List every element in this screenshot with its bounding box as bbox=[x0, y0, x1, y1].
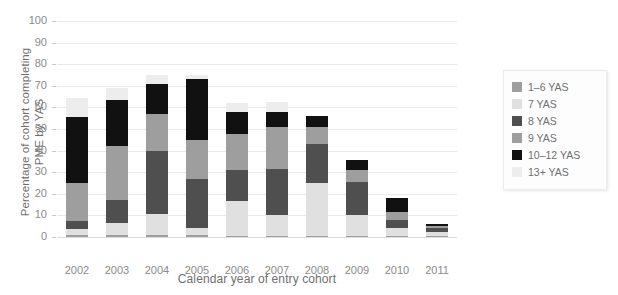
bar-segment[interactable] bbox=[386, 228, 408, 236]
bar-segment[interactable] bbox=[426, 226, 448, 228]
bar-segment[interactable] bbox=[306, 144, 328, 183]
stacked-bar[interactable] bbox=[386, 198, 408, 237]
y-tick-label: 10 bbox=[15, 208, 47, 220]
y-tick-mark bbox=[52, 107, 56, 108]
bar-segment[interactable] bbox=[106, 88, 128, 100]
bar-segment[interactable] bbox=[186, 79, 208, 139]
bar-segment[interactable] bbox=[346, 160, 368, 170]
bar-segment[interactable] bbox=[146, 75, 168, 84]
legend-item-label: 7 YAS bbox=[528, 98, 557, 110]
bar-segment[interactable] bbox=[346, 215, 368, 236]
bar-segment[interactable] bbox=[266, 127, 288, 169]
bar-segment[interactable] bbox=[226, 236, 248, 237]
stacked-bar[interactable] bbox=[66, 98, 88, 237]
bar-segment[interactable] bbox=[66, 235, 88, 237]
bar-segment[interactable] bbox=[426, 224, 448, 226]
legend-swatch-icon bbox=[512, 99, 522, 109]
legend-item[interactable]: 7 YAS bbox=[512, 96, 599, 112]
bar-segment[interactable] bbox=[66, 98, 88, 117]
bar-segment[interactable] bbox=[306, 116, 328, 127]
bar-segment[interactable] bbox=[426, 228, 448, 231]
bar-segment[interactable] bbox=[106, 100, 128, 146]
bar-segment[interactable] bbox=[386, 198, 408, 212]
bar-segment[interactable] bbox=[346, 182, 368, 215]
y-tick-label: 50 bbox=[15, 122, 47, 134]
y-tick-mark bbox=[52, 43, 56, 44]
bar-segment[interactable] bbox=[106, 223, 128, 235]
bar-segment[interactable] bbox=[266, 112, 288, 127]
stacked-bar[interactable] bbox=[186, 75, 208, 237]
bar-segment[interactable] bbox=[306, 236, 328, 237]
legend-item[interactable]: 8 YAS bbox=[512, 113, 599, 129]
bar-segment[interactable] bbox=[106, 200, 128, 223]
legend-swatch-icon bbox=[512, 167, 522, 177]
y-tick-mark bbox=[52, 237, 56, 238]
bar-segment[interactable] bbox=[266, 169, 288, 215]
legend-item-label: 9 YAS bbox=[528, 132, 557, 144]
bar-segment[interactable] bbox=[186, 235, 208, 237]
bar-segment[interactable] bbox=[386, 212, 408, 220]
bar-segment[interactable] bbox=[266, 236, 288, 237]
y-tick-mark bbox=[52, 194, 56, 195]
legend-item[interactable]: 1–6 YAS bbox=[512, 79, 599, 95]
y-tick-mark bbox=[52, 129, 56, 130]
bar-segment[interactable] bbox=[386, 220, 408, 229]
legend-item[interactable]: 10–12 YAS bbox=[512, 147, 599, 163]
bar-segment[interactable] bbox=[186, 75, 208, 79]
bar-segment[interactable] bbox=[66, 221, 88, 230]
bar-segment[interactable] bbox=[346, 170, 368, 182]
y-tick-label: 30 bbox=[15, 165, 47, 177]
bar-segment[interactable] bbox=[306, 183, 328, 236]
bar-segment[interactable] bbox=[426, 232, 448, 236]
stacked-bar[interactable] bbox=[306, 116, 328, 237]
bar-segment[interactable] bbox=[146, 151, 168, 215]
y-tick-mark bbox=[52, 64, 56, 65]
bar-segment[interactable] bbox=[346, 236, 368, 237]
y-tick-label: 90 bbox=[15, 36, 47, 48]
y-tick-mark bbox=[52, 151, 56, 152]
bar-segment[interactable] bbox=[106, 235, 128, 237]
y-tick-label: 70 bbox=[15, 79, 47, 91]
y-tick-label: 0 bbox=[15, 230, 47, 242]
stacked-bar[interactable] bbox=[146, 75, 168, 237]
y-tick-mark bbox=[52, 215, 56, 216]
bar-segment[interactable] bbox=[226, 134, 248, 170]
bar-segment[interactable] bbox=[226, 201, 248, 236]
y-tick-mark bbox=[52, 172, 56, 173]
bar-segment[interactable] bbox=[226, 103, 248, 112]
bar-segment[interactable] bbox=[146, 114, 168, 151]
y-tick-mark bbox=[52, 86, 56, 87]
y-tick-label: 100 bbox=[15, 14, 47, 26]
bar-segment[interactable] bbox=[426, 236, 448, 237]
y-tick-mark bbox=[52, 21, 56, 22]
gridline bbox=[57, 86, 457, 87]
bar-segment[interactable] bbox=[186, 179, 208, 229]
bar-segment[interactable] bbox=[66, 183, 88, 221]
legend-item[interactable]: 13+ YAS bbox=[512, 164, 599, 180]
bar-segment[interactable] bbox=[386, 236, 408, 237]
bar-segment[interactable] bbox=[226, 112, 248, 135]
y-tick-label: 20 bbox=[15, 187, 47, 199]
bar-segment[interactable] bbox=[226, 170, 248, 201]
stacked-bar[interactable] bbox=[266, 102, 288, 237]
bar-segment[interactable] bbox=[306, 127, 328, 144]
bar-segment[interactable] bbox=[266, 102, 288, 112]
legend-item[interactable]: 9 YAS bbox=[512, 130, 599, 146]
stacked-bar[interactable] bbox=[106, 88, 128, 237]
bar-segment[interactable] bbox=[186, 140, 208, 179]
bar-segment[interactable] bbox=[146, 214, 168, 235]
gridline bbox=[57, 21, 457, 22]
stacked-bar[interactable] bbox=[426, 224, 448, 237]
stacked-bar[interactable] bbox=[346, 160, 368, 237]
bar-segment[interactable] bbox=[146, 235, 168, 237]
bar-segment[interactable] bbox=[266, 215, 288, 236]
x-axis-title: Calendar year of entry cohort bbox=[57, 272, 457, 286]
bar-segment[interactable] bbox=[66, 117, 88, 183]
chart-legend: 1–6 YAS7 YAS8 YAS9 YAS10–12 YAS13+ YAS bbox=[503, 70, 607, 190]
bar-segment[interactable] bbox=[186, 228, 208, 234]
legend-swatch-icon bbox=[512, 133, 522, 143]
stacked-bar[interactable] bbox=[226, 103, 248, 237]
bar-segment[interactable] bbox=[146, 84, 168, 114]
bar-segment[interactable] bbox=[66, 229, 88, 234]
bar-segment[interactable] bbox=[106, 146, 128, 200]
